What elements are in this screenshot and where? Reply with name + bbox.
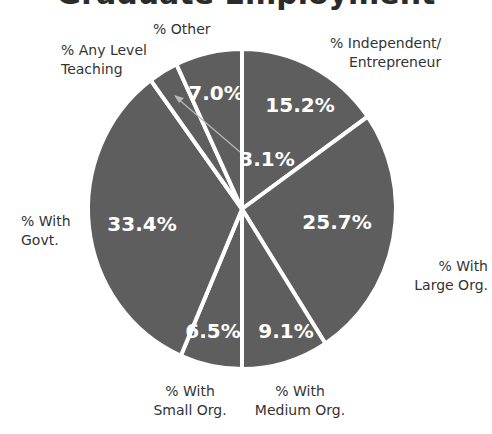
label-any-level-teaching: % Any Level Teaching [61, 41, 147, 79]
label-large-org: % With Large Org. [400, 257, 488, 295]
label-independent-entrepreneur: % Independent/ Entrepreneur [330, 34, 441, 72]
label-other: % Other [153, 20, 211, 39]
slice-value-label: 7.0% [188, 81, 243, 105]
slice-value-label: 9.1% [258, 319, 313, 343]
slice-value-label: 3.1% [239, 147, 294, 171]
slice-value-label: 6.5% [185, 319, 240, 343]
slice-value-label: 15.2% [265, 93, 334, 117]
slice-value-label: 25.7% [302, 210, 371, 234]
label-medium-org: % With Medium Org. [250, 382, 350, 420]
label-govt: % With Govt. [21, 212, 71, 250]
slice-value-label: 33.4% [107, 212, 176, 236]
label-small-org: % With Small Org. [150, 382, 230, 420]
